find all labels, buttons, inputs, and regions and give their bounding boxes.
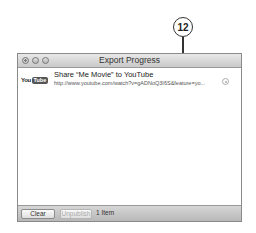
item-count: 1 Item xyxy=(96,209,114,216)
export-progress-window: Export Progress You Tube Share “Me Movie… xyxy=(17,53,242,222)
item-title: Share “Me Movie” to YouTube xyxy=(54,70,153,79)
reveal-icon[interactable] xyxy=(222,78,229,85)
unpublish-button[interactable]: Unpublish xyxy=(60,209,92,219)
youtube-logo-tube: Tube xyxy=(32,77,48,84)
list-item[interactable]: You Tube Share “Me Movie” to YouTube htt… xyxy=(18,68,241,92)
youtube-logo-you: You xyxy=(21,77,31,83)
title-bar[interactable]: Export Progress xyxy=(18,54,241,68)
window-title: Export Progress xyxy=(18,55,241,65)
clear-button[interactable]: Clear xyxy=(21,209,55,219)
youtube-logo-icon: You Tube xyxy=(21,76,45,84)
item-link[interactable]: http://www.youtube.com/watch?v=gADNoQ3I6… xyxy=(54,80,212,86)
callout-badge: 12 xyxy=(173,17,193,37)
bottom-bar: Clear Unpublish 1 Item xyxy=(18,205,241,221)
